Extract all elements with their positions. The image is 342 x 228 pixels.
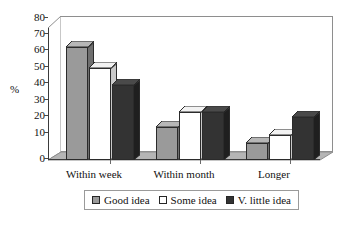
legend: Good idea Some idea V. little idea <box>84 190 299 210</box>
bar-within-month-v-little-idea <box>202 106 224 160</box>
y-tick-label-60: 60 <box>25 44 45 55</box>
y-tick-label-40: 40 <box>25 77 45 88</box>
bar-within-month-good-idea <box>156 121 178 160</box>
bar-longer-v-little-idea <box>292 111 314 160</box>
bar-front-face <box>269 135 291 160</box>
bar-within-week-v-little-idea <box>112 79 134 160</box>
bar-within-week-some-idea <box>89 62 111 160</box>
legend-label: V. little idea <box>238 195 291 206</box>
legend-swatch-icon <box>226 196 234 204</box>
bar-front-face <box>156 127 178 160</box>
y-axis-tick-labels: 80 70 60 50 40 30 20 10 0 <box>21 0 45 228</box>
x-axis-tick-2 <box>200 160 201 164</box>
x-axis-label-within-week: Within week <box>52 168 136 180</box>
bar-front-face <box>66 47 88 160</box>
bar-side-face <box>314 112 320 160</box>
bar-chart: % 80 70 60 50 40 30 20 10 0 <box>0 0 342 228</box>
y-tick-label-70: 70 <box>25 28 45 39</box>
legend-item-good-idea: Good idea <box>92 195 150 206</box>
y-tick-label-80: 80 <box>25 12 45 23</box>
legend-swatch-icon <box>92 196 100 204</box>
x-axis-tick-3 <box>290 160 291 164</box>
plot-area <box>48 16 333 164</box>
y-tick-label-10: 10 <box>25 127 45 138</box>
bar-front-face <box>292 117 314 160</box>
y-tick-label-50: 50 <box>25 61 45 72</box>
y-tick-label-0: 0 <box>25 153 45 164</box>
y-tick-label-20: 20 <box>25 110 45 121</box>
x-axis-label-longer: Longer <box>232 168 316 180</box>
bar-front-face <box>202 112 224 160</box>
bar-side-face <box>134 80 140 160</box>
legend-label: Good idea <box>104 195 150 206</box>
legend-item-some-idea: Some idea <box>159 195 217 206</box>
bar-side-face <box>224 107 230 160</box>
x-axis-tick-1 <box>110 160 111 164</box>
bar-within-month-some-idea <box>179 106 201 160</box>
bar-group-longer <box>242 28 326 160</box>
legend-item-v-little-idea: V. little idea <box>226 195 291 206</box>
bar-group-within-week <box>62 28 146 160</box>
bar-longer-some-idea <box>269 129 291 160</box>
legend-label: Some idea <box>171 195 217 206</box>
bar-front-face <box>179 112 201 160</box>
x-axis-label-within-month: Within month <box>142 168 226 180</box>
y-tick-label-30: 30 <box>25 94 45 105</box>
bar-group-within-month <box>152 28 236 160</box>
bar-within-week-good-idea <box>66 41 88 160</box>
bar-front-face <box>112 85 134 160</box>
y-axis-title: % <box>10 84 19 95</box>
bars-layer <box>48 16 333 164</box>
legend-swatch-icon <box>159 196 167 204</box>
bar-front-face <box>246 143 268 160</box>
bar-front-face <box>89 68 111 160</box>
bar-longer-good-idea <box>246 137 268 160</box>
